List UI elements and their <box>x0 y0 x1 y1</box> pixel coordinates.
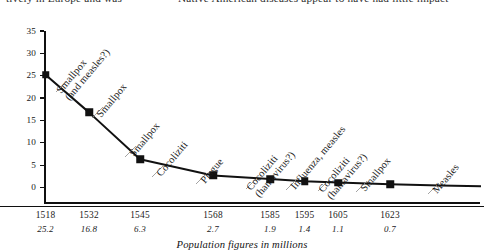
x-axis-population-label: 2.7 <box>207 224 219 234</box>
x-axis-year-label: 1568 <box>203 210 223 220</box>
x-axis-year-label: 1518 <box>36 210 56 220</box>
x-axis-year-label: 1595 <box>295 210 315 220</box>
x-axis-population-label: 6.3 <box>134 224 146 234</box>
annotation-leader-lines <box>0 14 484 243</box>
page-text-column-right: Native American diseases appear to have … <box>178 0 448 4</box>
x-axis-population-label: 1.4 <box>299 224 311 234</box>
x-axis-year-label: 1623 <box>380 210 400 220</box>
page-text-column-left: tively in Europe and was <box>6 0 122 4</box>
x-axis-year-label: 1532 <box>79 210 99 220</box>
chart-plot-area: 05101520253035 Smallpox(and measles?)Sma… <box>0 14 484 243</box>
x-axis-population-label: 1.1 <box>332 224 344 234</box>
x-axis-population-label: 0.7 <box>384 224 396 234</box>
x-axis-population-label: 16.8 <box>81 224 98 234</box>
x-axis-population-label: 25.2 <box>37 224 54 234</box>
page-running-text: tively in Europe and was Native American… <box>0 0 484 13</box>
x-axis-year-label: 1585 <box>260 210 280 220</box>
x-axis-population-label: 1.9 <box>264 224 276 234</box>
chart-caption: Population figures in millions <box>0 239 484 250</box>
x-axis-year-label: 1545 <box>130 210 150 220</box>
x-axis-year-label: 1605 <box>328 210 348 220</box>
